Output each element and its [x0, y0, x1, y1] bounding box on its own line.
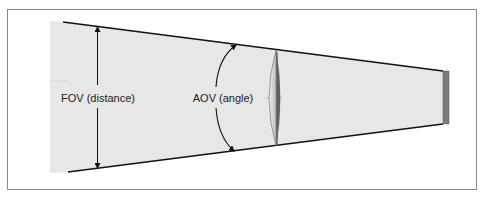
- fov-aov-diagram: FOV (distance) AOV (angle): [0, 0, 497, 198]
- sensor: [443, 71, 449, 124]
- aov-label: AOV (angle): [193, 92, 254, 104]
- fov-label: FOV (distance): [61, 92, 135, 104]
